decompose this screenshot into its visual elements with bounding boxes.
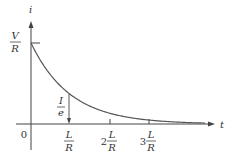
x-tick-2-coef: 2 — [101, 136, 107, 147]
ie-den: e — [58, 107, 64, 118]
x-tick-1-den: R — [64, 142, 73, 153]
rl-decay-chart: i t V R I e 0 L R 2 L R 3 L R — [0, 0, 233, 158]
vr-num: V — [11, 30, 20, 41]
x-axis-arrow-icon — [208, 122, 215, 127]
ie-num: I — [58, 95, 64, 106]
x-tick-3-den: R — [146, 142, 155, 153]
x-tick-2-den: R — [107, 142, 116, 153]
x-tick-2-num: L — [108, 129, 116, 140]
x-tick-3-num: L — [147, 129, 155, 140]
x-tick-3-coef: 3 — [140, 136, 146, 147]
ie-arrow-icon — [67, 118, 71, 124]
origin-label: 0 — [21, 129, 27, 140]
vr-den: R — [10, 43, 19, 54]
y-axis-arrow-icon — [29, 21, 34, 28]
y-axis-label: i — [29, 4, 32, 15]
x-tick-1-num: L — [65, 129, 73, 140]
x-axis-label: t — [220, 119, 225, 130]
